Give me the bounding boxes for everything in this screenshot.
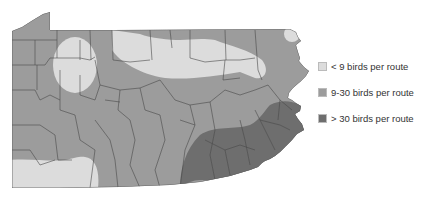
region-low-ne — [284, 26, 300, 42]
legend-item-mid: 9-30 birds per route — [318, 86, 414, 98]
legend-item-low: < 9 birds per route — [318, 60, 414, 72]
legend-swatch-high — [318, 114, 327, 123]
legend-label-low: < 9 birds per route — [331, 61, 408, 72]
pennsylvania-map — [0, 0, 310, 200]
map-svg — [0, 0, 310, 200]
legend-item-high: > 30 birds per route — [318, 112, 414, 124]
region-low-sw — [10, 157, 98, 188]
legend-label-high: > 30 birds per route — [331, 113, 414, 124]
legend-swatch-low — [318, 62, 327, 71]
legend-label-mid: 9-30 birds per route — [331, 87, 414, 98]
legend: < 9 birds per route 9-30 birds per route… — [318, 60, 414, 138]
legend-swatch-mid — [318, 88, 327, 97]
